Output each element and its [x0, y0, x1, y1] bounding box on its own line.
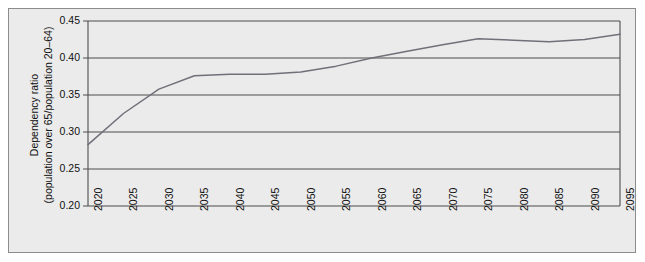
x-tick-label: 2020: [92, 187, 104, 211]
x-tick-label: 2070: [447, 187, 459, 211]
x-tick-label: 2085: [553, 187, 565, 211]
x-tick-label: 2040: [234, 187, 246, 211]
x-tick-label: 2075: [482, 187, 494, 211]
line-chart-plot: 0.45 0.40 0.35 0.30 0.25 0.20 Dependency…: [0, 0, 645, 262]
plot-axes: [88, 21, 620, 206]
x-axis-tick-labels: 2020 2025 2030 2035 2040 2045 2050 2055 …: [92, 187, 636, 211]
dependency-ratio-series: [88, 34, 620, 144]
x-tick-label: 2030: [163, 187, 175, 211]
y-tick-label: 0.45: [60, 14, 81, 26]
gridlines: [88, 21, 620, 169]
y-axis-title-line2: (population over 65/population 20–64): [42, 27, 54, 204]
x-tick-label: 2025: [127, 187, 139, 211]
y-tick-label: 0.35: [60, 88, 81, 100]
x-tick-label: 2050: [305, 187, 317, 211]
y-tick-label: 0.20: [60, 199, 81, 211]
chart-figure: 0.45 0.40 0.35 0.30 0.25 0.20 Dependency…: [0, 0, 645, 262]
y-axis-title: Dependency ratio (population over 65/pop…: [28, 27, 54, 204]
x-tick-label: 2080: [518, 187, 530, 211]
y-axis-title-line1: Dependency ratio: [28, 74, 40, 156]
x-tick-label: 2095: [624, 187, 636, 211]
x-tick-label: 2045: [269, 187, 281, 211]
y-tick-marks: [83, 21, 88, 206]
y-tick-label: 0.25: [60, 162, 81, 174]
y-axis-tick-labels: 0.45 0.40 0.35 0.30 0.25 0.20: [60, 14, 81, 211]
x-tick-label: 2090: [589, 187, 601, 211]
y-tick-label: 0.30: [60, 125, 81, 137]
y-tick-label: 0.40: [60, 51, 81, 63]
x-tick-label: 2060: [376, 187, 388, 211]
x-tick-label: 2065: [411, 187, 423, 211]
x-tick-label: 2035: [198, 187, 210, 211]
x-tick-label: 2055: [340, 187, 352, 211]
